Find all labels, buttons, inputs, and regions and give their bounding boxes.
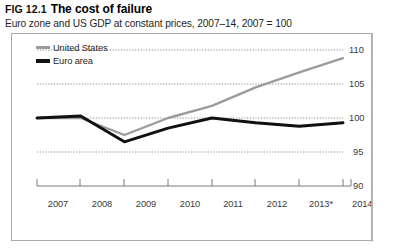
figure-subtitle: Euro zone and US GDP at constant prices,… — [5, 17, 390, 30]
x-axis — [37, 179, 351, 186]
legend-item-united-states: United States — [36, 42, 108, 53]
x-tick-label-2011: 2011 — [223, 199, 243, 209]
figure-header: FIG 12.1The cost of failure Euro zone an… — [5, 1, 390, 30]
figure-number: FIG 12.1 — [5, 3, 47, 15]
x-tick-label-2013: 2013* — [309, 199, 333, 209]
y-tick-label-95: 95 — [353, 147, 363, 157]
legend-swatch-icon-euro-area — [36, 59, 50, 63]
chart-legend: United States Euro area — [36, 42, 108, 68]
legend-item-euro-area: Euro area — [36, 55, 108, 66]
x-tick-label-2008: 2008 — [92, 199, 112, 209]
page-gutter-rule — [372, 33, 373, 242]
legend-swatch-icon-united-states — [36, 46, 50, 49]
x-tick-label-2007: 2007 — [48, 199, 68, 209]
legend-label-united-states: United States — [53, 43, 108, 53]
y-tick-label-105: 105 — [349, 79, 365, 89]
x-axis-labels: 2007 2008 2009 2010 2011 2012 2013* 2014… — [48, 199, 371, 209]
y-tick-label-90: 90 — [353, 181, 363, 191]
legend-label-euro-area: Euro area — [53, 56, 93, 66]
y-tick-label-100: 100 — [349, 113, 365, 123]
y-axis-labels: 110 105 100 95 90 — [349, 45, 365, 191]
x-tick-label-2009: 2009 — [136, 199, 156, 209]
x-tick-label-2012: 2012 — [267, 199, 287, 209]
page-title: The cost of failure — [51, 2, 152, 16]
y-tick-label-110: 110 — [349, 45, 364, 55]
figure-title-line: FIG 12.1The cost of failure — [5, 1, 390, 15]
x-tick-label-2014: 2014* — [352, 199, 371, 209]
x-tick-label-2010: 2010 — [180, 199, 200, 209]
